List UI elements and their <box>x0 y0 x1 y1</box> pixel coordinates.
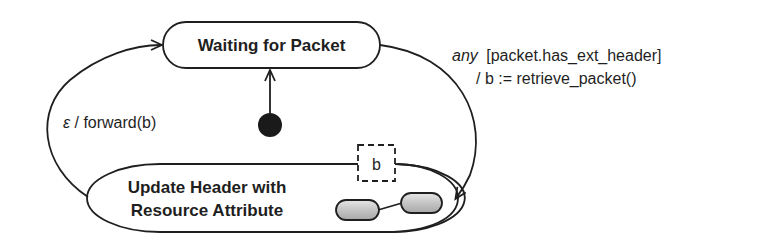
state-waiting-label: Waiting for Packet <box>198 36 346 55</box>
composite-icon-capsule-1 <box>336 200 379 220</box>
transition-update-to-waiting-label: ε / forward(b) <box>63 114 156 131</box>
state-update-label-line2: Resource Attribute <box>131 201 283 220</box>
trigger-epsilon: ε <box>63 114 71 131</box>
transition-update-to-waiting[interactable]: ε / forward(b) <box>47 45 161 197</box>
effect-forward-b: / forward(b) <box>74 114 156 131</box>
guard-has-ext-header: [packet.has_ext_header] <box>486 47 661 65</box>
transition-waiting-to-update-effect: / b := retrieve_packet() <box>476 70 637 88</box>
state-waiting-for-packet[interactable]: Waiting for Packet <box>163 22 380 68</box>
composite-state-icon <box>336 193 442 220</box>
state-diagram: Waiting for Packet Update Header with Re… <box>0 0 759 250</box>
composite-icon-capsule-2 <box>401 193 442 213</box>
pin-b-label: b <box>372 156 381 173</box>
diagram-svg: Waiting for Packet Update Header with Re… <box>0 0 759 250</box>
transition-waiting-to-update-label-line1: any [packet.has_ext_header] <box>452 47 661 65</box>
composite-icon-link <box>378 203 402 210</box>
transition-waiting-to-update[interactable]: any [packet.has_ext_header] / b := retri… <box>380 45 661 198</box>
initial-node-dot <box>258 113 282 137</box>
state-update-label-line1: Update Header with <box>128 178 287 197</box>
trigger-any: any <box>452 47 479 64</box>
state-update-header[interactable]: Update Header with Resource Attribute <box>87 164 465 232</box>
pin-b[interactable]: b <box>358 145 395 181</box>
initial-node[interactable] <box>258 71 282 137</box>
